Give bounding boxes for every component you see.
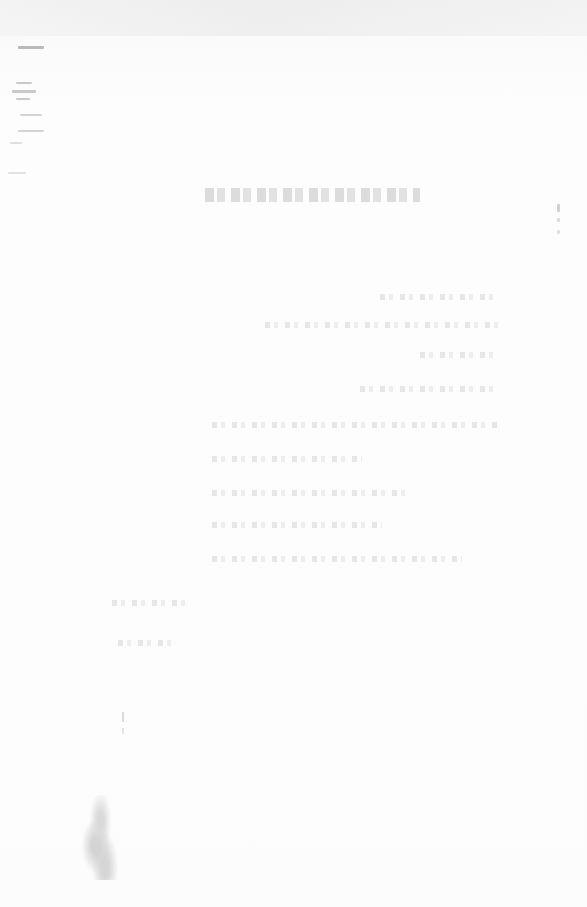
body-line: [212, 490, 412, 496]
scan-edge-shadow: [0, 0, 587, 36]
body-line: [212, 556, 462, 562]
body-line: [265, 322, 500, 328]
body-line: [212, 456, 362, 462]
body-line: [212, 522, 382, 528]
document-title: [205, 188, 420, 202]
body-line: [212, 422, 500, 428]
body-line: [420, 352, 500, 358]
right-margin-marks: [556, 200, 562, 240]
body-line: [360, 386, 500, 392]
body-line: [118, 640, 173, 646]
body-line: [112, 600, 192, 606]
body-line: [380, 294, 500, 300]
ink-smudge: [78, 795, 123, 880]
margin-annotation: [8, 42, 68, 182]
scanned-page: [0, 0, 587, 907]
